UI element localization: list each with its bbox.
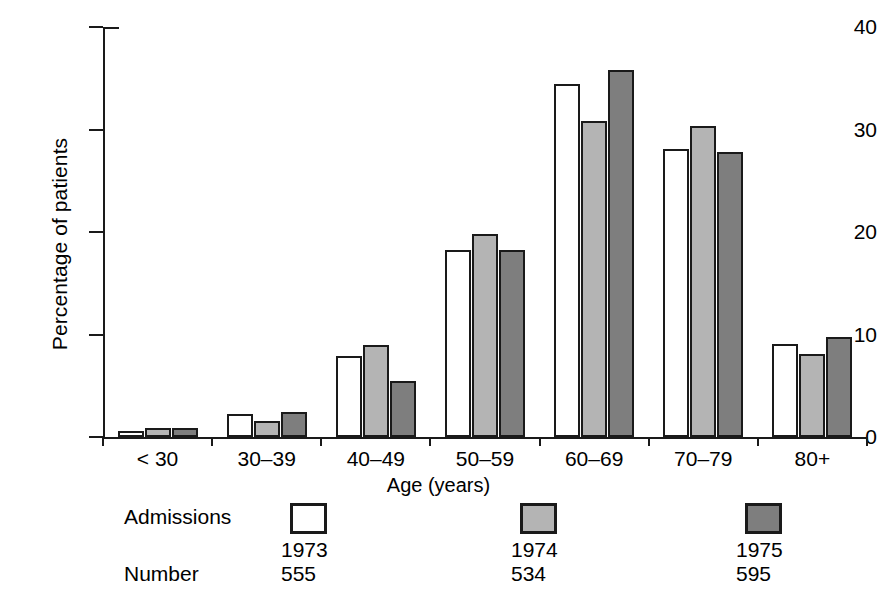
bar-1973-80 — [772, 344, 798, 437]
bar-1974-30 — [145, 428, 171, 437]
bar-group-4 — [445, 27, 525, 437]
x-axis-separator-2 — [320, 437, 322, 446]
chart-legend: Admissions Number 197355519745341975595 — [0, 500, 877, 594]
legend-number-1974: 534 — [511, 562, 546, 586]
legend-number-1975: 595 — [736, 562, 771, 586]
legend-row-label-admissions: Admissions — [124, 505, 231, 529]
x-category-label-4: 50–59 — [456, 447, 514, 471]
bar-1974-3039 — [254, 421, 280, 437]
bar-1974-80 — [799, 354, 825, 437]
x-axis-title: Age (years) — [0, 474, 877, 497]
legend-year-1974: 1974 — [511, 538, 558, 562]
x-category-label-6: 70–79 — [674, 447, 732, 471]
y-tick-30 — [89, 129, 103, 131]
legend-year-1975: 1975 — [736, 538, 783, 562]
bar-1975-30 — [172, 428, 198, 437]
bar-group-5 — [554, 27, 634, 437]
bar-1973-4049 — [336, 356, 362, 437]
legend-white-swatch — [290, 503, 327, 534]
bar-1974-5059 — [472, 234, 498, 437]
bars-layer — [103, 27, 867, 437]
y-tick-10 — [89, 334, 103, 336]
bar-1974-7079 — [690, 126, 716, 437]
bar-group-6 — [663, 27, 743, 437]
legend-year-1973: 1973 — [281, 538, 328, 562]
bar-1975-5059 — [499, 250, 525, 437]
bar-1975-3039 — [281, 412, 307, 437]
x-category-label-5: 60–69 — [565, 447, 623, 471]
bar-1973-6069 — [554, 84, 580, 437]
legend-number-1973: 555 — [281, 562, 316, 586]
x-axis-separator-5 — [648, 437, 650, 446]
x-axis-separator-3 — [429, 437, 431, 446]
x-axis-separator-1 — [211, 437, 213, 446]
legend-light-gray-swatch — [520, 503, 557, 534]
bar-1974-4049 — [363, 345, 389, 437]
bar-1973-3039 — [227, 414, 253, 437]
y-tick-20 — [89, 231, 103, 233]
bar-1975-7079 — [717, 152, 743, 437]
bar-chart-figure: Percentage of patients 010203040 < 3030–… — [0, 0, 877, 594]
bar-1975-6069 — [608, 70, 634, 437]
bar-group-7 — [772, 27, 852, 437]
bar-1975-4049 — [390, 381, 416, 437]
bar-group-3 — [336, 27, 416, 437]
bar-1973-30 — [118, 431, 144, 437]
x-axis-separator-7 — [866, 437, 868, 446]
bar-group-2 — [227, 27, 307, 437]
x-category-label-3: 40–49 — [347, 447, 405, 471]
x-category-label-1: < 30 — [137, 447, 178, 471]
bar-1975-80 — [826, 337, 852, 437]
y-tick-0 — [89, 436, 103, 438]
bar-1973-5059 — [445, 250, 471, 437]
x-axis-separator-0 — [102, 437, 104, 446]
x-axis-separator-6 — [757, 437, 759, 446]
bar-group-1 — [118, 27, 198, 437]
x-category-label-7: 80+ — [795, 447, 831, 471]
y-tick-40 — [89, 26, 103, 28]
legend-row-label-number: Number — [124, 562, 199, 586]
bar-1974-6069 — [581, 121, 607, 437]
bar-1973-7079 — [663, 149, 689, 437]
x-category-label-2: 30–39 — [238, 447, 296, 471]
y-axis-title: Percentage of patients — [48, 34, 72, 454]
legend-dark-gray-swatch — [745, 503, 782, 534]
x-axis-line — [103, 437, 867, 439]
x-axis-separator-4 — [539, 437, 541, 446]
page-bottom-edge-artifact — [0, 586, 877, 594]
